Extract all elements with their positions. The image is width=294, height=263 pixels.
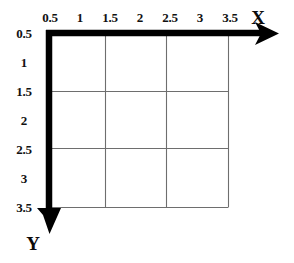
y-axis-label: Y	[26, 234, 40, 253]
y-tick-label-6: 3.5	[16, 201, 32, 214]
grid-horizontal-lines	[49, 92, 229, 208]
y-tick-label-1: 1	[21, 56, 27, 69]
y-tick-label-2: 1.5	[16, 85, 32, 98]
grid-vertical-lines	[106, 31, 229, 207]
x-tick-label-6: 3.5	[222, 11, 238, 24]
x-tick-label-0: 0.5	[42, 11, 58, 24]
y-tick-label-0: 0.5	[16, 27, 32, 40]
x-axis-line	[46, 22, 279, 45]
x-axis-label: X	[251, 8, 265, 27]
y-tick-label-3: 2	[21, 114, 27, 127]
y-tick-label-4: 2.5	[16, 143, 32, 156]
grid-and-axes-graphic	[0, 0, 294, 263]
y-axis-arrowhead	[37, 208, 61, 234]
x-tick-label-2: 1.5	[102, 11, 118, 24]
y-axis-line	[37, 30, 61, 234]
x-tick-label-3: 2	[137, 11, 143, 24]
x-tick-label-4: 2.5	[162, 11, 178, 24]
coordinate-grid-figure: 0.5 1 1.5 2 2.5 3 3.5 0.5 1 1.5 2 2.5 3 …	[0, 0, 294, 263]
x-tick-label-5: 3	[197, 11, 203, 24]
x-tick-label-1: 1	[77, 11, 83, 24]
y-tick-label-5: 3	[21, 172, 27, 185]
